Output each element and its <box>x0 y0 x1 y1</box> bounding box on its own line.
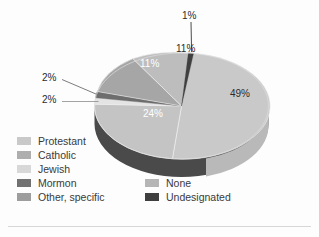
legend-label-jewish: Jewish <box>38 163 70 175</box>
legend-item-none[interactable]: None <box>145 176 191 189</box>
chart-legend: Protestant Catholic Jewish Mormon Other,… <box>17 134 297 216</box>
legend-label-mormon: Mormon <box>38 177 77 189</box>
pie-label-mormon: 2% <box>42 72 56 83</box>
legend-swatch-mormon <box>17 179 31 187</box>
legend-item-other-specific[interactable]: Other, specific <box>17 190 105 203</box>
pie-label-catholic: 24% <box>143 108 163 119</box>
legend-item-mormon[interactable]: Mormon <box>17 176 77 189</box>
legend-swatch-protestant <box>17 137 31 145</box>
leader-line-mormon <box>62 80 96 95</box>
pie-label-undesignated: 1% <box>182 10 196 21</box>
legend-label-other-specific: Other, specific <box>38 191 105 203</box>
legend-swatch-undesignated <box>145 193 159 201</box>
legend-swatch-none <box>145 179 159 187</box>
legend-item-catholic[interactable]: Catholic <box>17 148 76 161</box>
legend-label-protestant: Protestant <box>38 135 86 147</box>
legend-swatch-jewish <box>17 165 31 173</box>
pie-label-protestant: 49% <box>230 88 250 99</box>
bottom-divider <box>8 226 311 227</box>
legend-swatch-catholic <box>17 151 31 159</box>
pie-label-jewish: 2% <box>42 94 56 105</box>
legend-swatch-other-specific <box>17 193 31 201</box>
legend-label-undesignated: Undesignated <box>166 191 231 203</box>
legend-label-none: None <box>166 177 191 189</box>
pie-chart-figure: 1% 11% 11% 2% 2% 49% 24% Protestant Cath… <box>0 0 319 237</box>
legend-label-catholic: Catholic <box>38 149 76 161</box>
legend-item-jewish[interactable]: Jewish <box>17 162 70 175</box>
pie-label-other-specific: 11% <box>140 58 159 69</box>
legend-item-protestant[interactable]: Protestant <box>17 134 86 147</box>
legend-item-undesignated[interactable]: Undesignated <box>145 190 231 203</box>
pie-label-none: 11% <box>176 43 195 54</box>
